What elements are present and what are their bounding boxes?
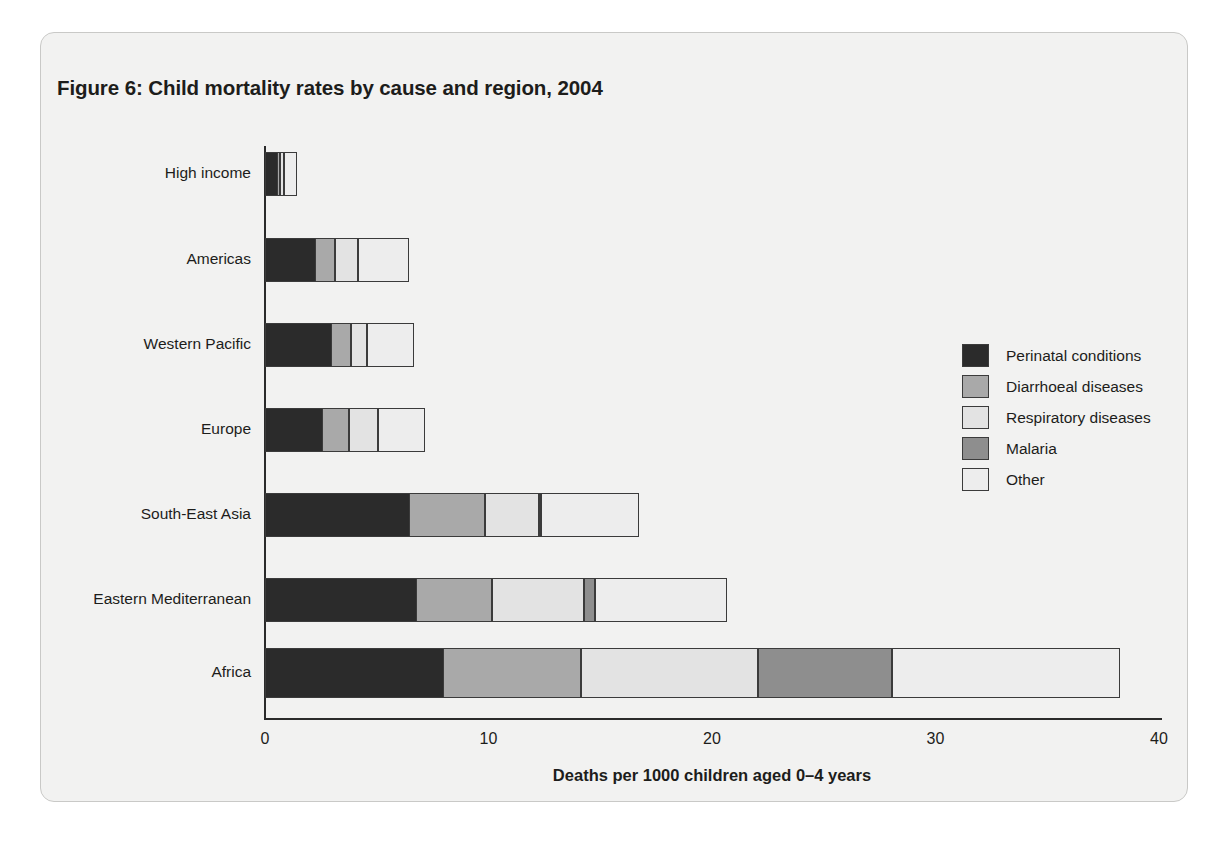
bar-segment[interactable] — [358, 238, 409, 282]
bar-segment[interactable] — [581, 648, 758, 698]
bar-row[interactable] — [265, 323, 415, 367]
bar-segment[interactable] — [758, 648, 892, 698]
bar-segment[interactable] — [322, 408, 349, 452]
bar-row[interactable] — [265, 152, 299, 196]
bar-segment[interactable] — [492, 578, 584, 622]
category-label: Europe — [0, 420, 251, 438]
bar-segment[interactable] — [315, 238, 335, 282]
bar-row[interactable] — [265, 408, 426, 452]
bar-segment[interactable] — [595, 578, 727, 622]
x-tick-label: 0 — [261, 730, 270, 748]
bar-segment[interactable] — [331, 323, 351, 367]
bar-segment[interactable] — [265, 238, 316, 282]
legend-item[interactable]: Diarrhoeal diseases — [962, 371, 1151, 402]
legend-item[interactable]: Malaria — [962, 433, 1151, 464]
bar-segment[interactable] — [351, 323, 367, 367]
bar-segment[interactable] — [443, 648, 582, 698]
bar-segment[interactable] — [367, 323, 414, 367]
legend-label: Respiratory diseases — [1006, 409, 1151, 427]
category-label: Eastern Mediterranean — [0, 590, 251, 608]
bar-segment[interactable] — [892, 648, 1120, 698]
legend-swatch-icon — [962, 375, 989, 398]
bar-segment[interactable] — [584, 578, 595, 622]
bar-segment[interactable] — [265, 408, 323, 452]
bar-row[interactable] — [265, 578, 728, 622]
bar-segment[interactable] — [265, 493, 410, 537]
legend-swatch-icon — [962, 344, 989, 367]
bar-row[interactable] — [265, 493, 640, 537]
bar-row[interactable] — [265, 238, 410, 282]
bar-segment[interactable] — [265, 648, 444, 698]
bar-row[interactable] — [265, 648, 1121, 698]
category-label: Western Pacific — [0, 335, 251, 353]
bar-segment[interactable] — [349, 408, 378, 452]
legend-swatch-icon — [962, 406, 989, 429]
category-label: South-East Asia — [0, 505, 251, 523]
category-label: Americas — [0, 250, 251, 268]
bar-segment[interactable] — [335, 238, 357, 282]
bar-segment[interactable] — [541, 493, 639, 537]
legend-item[interactable]: Perinatal conditions — [962, 340, 1151, 371]
legend-label: Diarrhoeal diseases — [1006, 378, 1143, 396]
category-label: High income — [0, 164, 251, 182]
bar-segment[interactable] — [416, 578, 492, 622]
bar-segment[interactable] — [378, 408, 425, 452]
figure-page: Figure 6: Child mortality rates by cause… — [0, 0, 1230, 858]
category-label: Africa — [0, 663, 251, 681]
bar-segment[interactable] — [265, 323, 332, 367]
x-tick-label: 40 — [1150, 730, 1168, 748]
x-tick-label: 30 — [927, 730, 945, 748]
legend-label: Malaria — [1006, 440, 1057, 458]
legend-label: Other — [1006, 471, 1045, 489]
x-tick-label: 20 — [703, 730, 721, 748]
legend-item[interactable]: Other — [962, 464, 1151, 495]
legend-swatch-icon — [962, 468, 989, 491]
bar-segment[interactable] — [265, 578, 417, 622]
x-tick-label: 10 — [480, 730, 498, 748]
bar-segment[interactable] — [409, 493, 485, 537]
legend-swatch-icon — [962, 437, 989, 460]
legend-item[interactable]: Respiratory diseases — [962, 402, 1151, 433]
bar-segment[interactable] — [485, 493, 539, 537]
bar-segment[interactable] — [284, 152, 297, 196]
x-axis-line — [264, 718, 1162, 720]
chart-legend: Perinatal conditionsDiarrhoeal diseasesR… — [962, 340, 1151, 495]
legend-label: Perinatal conditions — [1006, 347, 1141, 365]
x-axis-title: Deaths per 1000 children aged 0–4 years — [553, 766, 871, 785]
